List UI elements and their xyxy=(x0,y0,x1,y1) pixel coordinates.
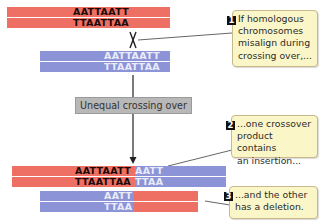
callout-line: If homologous xyxy=(238,13,313,25)
callout-line: an insertion... xyxy=(237,155,313,167)
callout-line: ...and the other xyxy=(235,189,313,201)
sequence-strand-1: AATTAATT xyxy=(104,51,160,61)
callout-line: misalign during xyxy=(238,37,313,49)
red-sequence-strand-2: TTAATTAA xyxy=(75,177,131,187)
step-number-badge: 3 xyxy=(224,192,233,201)
blue-sequence-strand-1: AATT xyxy=(104,191,132,201)
bottom-blue-chromosome: AATTAATT TTAATTAA xyxy=(40,51,170,73)
unequal-crossing-over-label: Unequal crossing over xyxy=(75,97,192,114)
red-sequence-strand-1: AATTAATT xyxy=(75,166,131,176)
callout-line: has a deletion. xyxy=(235,201,313,213)
blue-sequence-strand-1: AATT xyxy=(135,166,163,176)
deletion-product-chromosome: AATT TTAA xyxy=(40,191,198,213)
step-number-badge: 1 xyxy=(227,16,236,25)
blue-sequence-strand-2: TTAA xyxy=(135,177,163,187)
callout-line: ...one crossover xyxy=(237,118,313,130)
sequence-strand-2: TTAATTAA xyxy=(104,62,160,72)
red-segment-bottom xyxy=(134,202,198,212)
sequence-strand-1: AATTAATT xyxy=(73,7,129,17)
crossover-x-icon xyxy=(130,32,136,48)
callout-2: 2 ...one crossover product contains an i… xyxy=(231,115,318,158)
callout-1: 1 If homologous chromosomes misalign dur… xyxy=(232,10,318,67)
callout-line: chromosomes xyxy=(238,25,313,37)
arrow-down-icon xyxy=(130,157,137,164)
blue-sequence-strand-2: TTAA xyxy=(104,202,132,212)
step-number-badge: 2 xyxy=(226,121,235,130)
red-segment-top xyxy=(134,191,198,201)
callout-line: crossing over,... xyxy=(238,50,313,62)
callout-3: 3 ...and the other has a deletion. xyxy=(229,186,318,219)
sequence-strand-2: TTAATTAA xyxy=(73,18,129,28)
callout-line: product contains xyxy=(237,130,313,154)
insertion-product-chromosome: AATTAATT AATT TTAATTAA TTAA xyxy=(12,166,226,188)
top-red-chromosome: AATTAATT TTAATTAA xyxy=(7,7,170,29)
